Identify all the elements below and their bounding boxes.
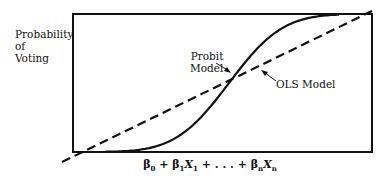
ols-annotation: OLS Model: [276, 78, 335, 90]
ols-annotation-line: OLS Model: [276, 78, 335, 90]
probit-annotation-line: Probit: [190, 50, 223, 62]
probit-annotation-line: Model: [190, 62, 223, 74]
probit-arrowhead-icon: [224, 67, 231, 73]
probit-annotation: Probit Model: [190, 50, 223, 74]
y-axis-label-line: Voting: [15, 52, 73, 64]
ols-arrowhead-icon: [261, 70, 268, 76]
chart-plot: [0, 0, 392, 180]
x-axis-label: β0 + β1X1 + . . . + βnXn: [0, 158, 392, 173]
y-axis-label-line: Probability: [15, 28, 73, 40]
y-axis-label-line: of: [15, 40, 73, 52]
y-axis-label: Probability of Voting: [15, 28, 73, 64]
